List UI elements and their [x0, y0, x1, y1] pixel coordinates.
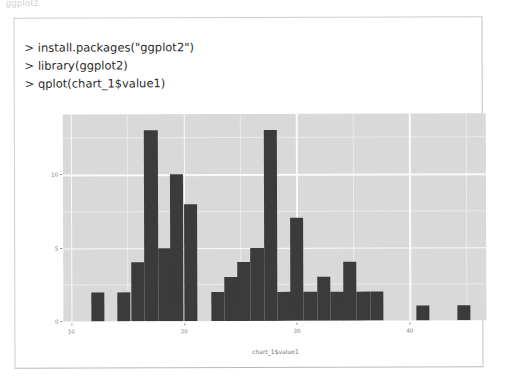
x-axis-tick-mark: [184, 323, 185, 325]
histogram-bar: [304, 291, 317, 320]
x-axis-tick-mark: [71, 324, 72, 326]
console-line: > library(ggplot2): [25, 55, 465, 74]
histogram-bar: [131, 263, 144, 322]
x-axis-title: chart_1$value1: [63, 347, 487, 355]
histogram-bar: [250, 248, 264, 321]
console-output: > install.packages("ggplot2")> library(g…: [25, 37, 465, 92]
x-axis-tick-mark: [410, 322, 411, 324]
histogram-bar: [331, 291, 344, 320]
histogram-bar: [264, 130, 278, 321]
histogram-bar: [370, 291, 383, 320]
x-axis-tick-label: 20: [174, 328, 194, 334]
histogram-bar: [170, 174, 184, 321]
x-axis-tick-mark: [297, 323, 298, 325]
page-top-text-fragment: ggplot2: [6, 0, 39, 8]
y-axis-tick-mark: [60, 174, 62, 175]
y-axis-tick-label: 10: [44, 172, 58, 178]
ggplot-histogram: 051010203040 chart_1$value1: [49, 113, 474, 364]
gridline-minor-vertical: [127, 114, 129, 321]
histogram-bar: [144, 130, 158, 321]
x-axis-tick-label: 30: [287, 328, 307, 334]
r-console-card: > install.packages("ggplot2")> library(g…: [13, 16, 483, 368]
y-axis-tick-mark: [60, 321, 62, 322]
gridline-major-vertical: [409, 113, 411, 320]
x-axis-tick-label: 10: [61, 329, 81, 335]
histogram-bar: [91, 292, 104, 321]
histogram-bar: [117, 292, 130, 321]
histogram-bar: [357, 291, 370, 320]
histogram-bar: [184, 204, 198, 321]
console-line: > qplot(chart_1$value1): [25, 73, 465, 92]
gridline-minor-vertical: [465, 113, 467, 320]
histogram-bar: [416, 306, 429, 321]
y-axis-tick-mark: [60, 248, 62, 249]
histogram-bar: [225, 277, 238, 321]
gridline-major-vertical: [71, 115, 73, 322]
y-axis-tick-label: 0: [44, 319, 58, 325]
histogram-bar: [457, 306, 470, 321]
histogram-bar: [290, 218, 304, 321]
histogram-bar: [237, 262, 250, 321]
console-line: > install.packages("ggplot2"): [25, 37, 465, 56]
histogram-bar: [317, 277, 330, 321]
y-axis-tick-label: 5: [44, 245, 58, 251]
x-axis-tick-label: 40: [400, 327, 420, 333]
plot-panel: [63, 113, 487, 321]
histogram-bar: [278, 292, 291, 321]
histogram-bar: [211, 292, 224, 321]
histogram-bar: [343, 262, 356, 321]
